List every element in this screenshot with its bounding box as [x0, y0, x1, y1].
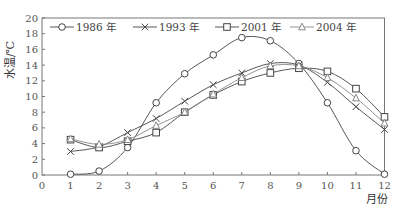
- x-axis-title: 月份: [366, 193, 388, 206]
- triangle-marker-icon: [299, 23, 306, 30]
- x-marker-icon: [181, 98, 188, 105]
- series-x: [67, 60, 388, 155]
- x-tick-label: 8: [267, 180, 273, 191]
- circle-marker-icon: [59, 24, 66, 31]
- legend-item: 1986 年: [50, 21, 116, 33]
- x-tick-label: 3: [124, 180, 130, 191]
- x-tick-label: 6: [210, 180, 216, 191]
- square-marker-icon: [153, 129, 160, 136]
- x-marker-icon: [210, 81, 217, 88]
- x-tick-label: 5: [182, 180, 188, 191]
- y-tick-label: 6: [32, 122, 38, 133]
- line-chart: 02468101214161820 0123456789101112 1986 …: [0, 0, 401, 215]
- y-tick-label: 10: [25, 91, 38, 102]
- circle-marker-icon: [124, 144, 131, 151]
- y-tick-label: 12: [25, 75, 38, 86]
- y-tick-label: 0: [32, 170, 38, 181]
- circle-marker-icon: [153, 99, 160, 106]
- x-tick-label: 9: [296, 180, 302, 191]
- circle-marker-icon: [67, 171, 74, 178]
- x-tick-label: 0: [39, 180, 45, 191]
- y-axis-title: 水温/℃: [4, 41, 17, 79]
- circle-marker-icon: [324, 99, 331, 106]
- x-tick-label: 4: [153, 180, 159, 191]
- x-tick-label: 10: [321, 180, 334, 191]
- series-line: [71, 68, 385, 147]
- legend-label: 2004 年: [316, 21, 356, 33]
- y-tick-label: 14: [25, 60, 38, 71]
- legend-label: 2001 年: [241, 21, 281, 33]
- x-tick-label: 2: [96, 180, 102, 191]
- x-tick-label: 11: [350, 180, 363, 191]
- circle-marker-icon: [96, 168, 103, 175]
- triangle-marker-icon: [353, 94, 360, 101]
- circle-marker-icon: [267, 37, 274, 44]
- legend-item: 1993 年: [133, 21, 199, 33]
- legend-label: 1986 年: [76, 21, 116, 33]
- series-circle: [67, 34, 388, 177]
- y-tick-label: 20: [25, 13, 38, 24]
- y-tick-label: 16: [25, 44, 38, 55]
- square-marker-icon: [267, 70, 274, 77]
- x-marker-icon: [353, 103, 360, 110]
- circle-marker-icon: [210, 52, 217, 59]
- x-tick-label: 1: [67, 180, 73, 191]
- series-line: [71, 36, 385, 174]
- legend-item: 2004 年: [290, 21, 356, 33]
- circle-marker-icon: [181, 70, 188, 77]
- x-tick-label: 12: [378, 180, 391, 191]
- legend: 1986 年1993 年2001 年2004 年: [50, 21, 356, 33]
- series-triangle: [67, 62, 388, 147]
- triangle-marker-icon: [153, 122, 160, 129]
- y-tick-label: 2: [32, 154, 38, 165]
- y-tick-label: 18: [25, 28, 38, 39]
- series-layer: [67, 34, 388, 177]
- legend-label: 1993 年: [159, 21, 199, 33]
- y-tick-label: 8: [32, 107, 38, 118]
- square-marker-icon: [353, 85, 360, 92]
- square-marker-icon: [224, 24, 231, 31]
- legend-item: 2001 年: [215, 21, 281, 33]
- y-tick-label: 4: [32, 138, 38, 149]
- circle-marker-icon: [353, 147, 360, 154]
- series-square: [67, 65, 388, 151]
- x-tick-label: 7: [239, 180, 245, 191]
- circle-marker-icon: [381, 171, 388, 178]
- circle-marker-icon: [238, 34, 245, 41]
